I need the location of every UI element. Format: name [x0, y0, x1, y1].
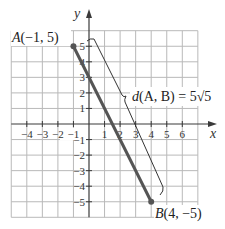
y-tick-label: −5 — [73, 196, 85, 208]
y-axis-arrow-icon — [86, 9, 92, 18]
point-a-dot — [70, 43, 76, 49]
y-tick-label: −4 — [73, 180, 85, 192]
distance-equals: = 5 — [175, 89, 197, 104]
distance-radical: √5 — [197, 89, 212, 104]
point-a-label: A(−1, 5) — [11, 30, 59, 46]
x-tick-label: 6 — [180, 128, 186, 140]
y-tick-label: −2 — [73, 149, 85, 161]
x-tick-label: −4 — [21, 128, 33, 140]
point-a-name: A — [11, 30, 21, 45]
point-b-coords: (4, −5) — [164, 206, 203, 222]
distance-label: d(A, B) = 5√5 — [132, 89, 211, 105]
coordinate-plane: −4−3−2−112345654321−1−2−3−4−5 x y A(−1, … — [0, 0, 225, 229]
x-axis-label: x — [209, 126, 217, 141]
y-tick-label: 5 — [80, 40, 86, 52]
point-b-dot — [148, 199, 154, 205]
x-tick-label: −2 — [52, 128, 64, 140]
x-tick-label: 5 — [164, 128, 170, 140]
y-tick-label: 1 — [80, 102, 86, 114]
x-tick-label: 4 — [148, 128, 154, 140]
x-tick-label: −3 — [36, 128, 48, 140]
y-tick-label: 3 — [80, 71, 86, 83]
y-tick-label: −1 — [73, 134, 85, 146]
y-tick-label: −3 — [73, 165, 85, 177]
y-tick-label: 2 — [80, 87, 86, 99]
label-backgrounds — [11, 29, 225, 223]
distance-formula-figure: −4−3−2−112345654321−1−2−3−4−5 x y A(−1, … — [0, 0, 225, 229]
point-b-label: B(4, −5) — [155, 206, 202, 222]
x-tick-label: 1 — [102, 128, 108, 140]
distance-args: (A, B) — [139, 89, 175, 105]
point-a-coords: (−1, 5) — [21, 30, 60, 46]
x-tick-label: 3 — [133, 128, 139, 140]
y-axis-label: y — [72, 6, 81, 21]
